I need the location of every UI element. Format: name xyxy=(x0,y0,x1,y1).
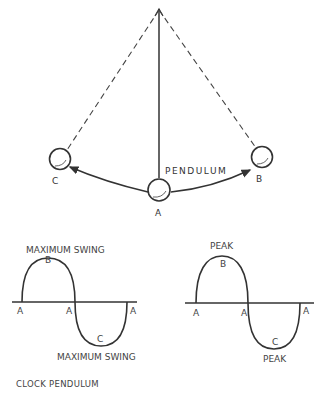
right-wave-trough-label: C xyxy=(272,337,278,347)
pendulum-label: PENDULUM xyxy=(165,166,227,176)
left-wave-peak-label: B xyxy=(45,255,51,265)
left-wave-graph: MAXIMUM SWING B C MAXIMUM SWING A A A xyxy=(12,245,137,362)
bob-position-c xyxy=(50,149,71,170)
left-wave-trough-label: C xyxy=(97,334,103,344)
label-a: A xyxy=(155,208,162,218)
left-wave-top-label: MAXIMUM SWING xyxy=(26,245,105,255)
left-wave-axis-label-2: A xyxy=(66,306,73,316)
right-wave-axis-label-1: A xyxy=(193,308,200,318)
swing-arrow-left xyxy=(70,167,148,192)
right-wave-bottom-label: PEAK xyxy=(263,354,287,364)
pendulum-swing-illustration: C B A PENDULUM xyxy=(50,9,273,218)
bob-position-b xyxy=(252,147,273,168)
pendulum-diagram: C B A PENDULUM MAXIMUM SWING B C MAXIMUM… xyxy=(0,0,327,395)
right-wave-peak-label: B xyxy=(220,259,226,269)
label-c: C xyxy=(52,176,58,186)
label-b: B xyxy=(256,174,262,184)
bob-position-a xyxy=(148,179,170,201)
right-wave-axis-label-3: A xyxy=(303,306,310,316)
right-wave-graph: PEAK B C PEAK A A A xyxy=(185,241,314,364)
dashed-line-left xyxy=(67,10,159,150)
dashed-line-right xyxy=(159,10,256,148)
right-wave-axis-label-2: A xyxy=(241,308,248,318)
right-wave-top-label: PEAK xyxy=(210,241,234,251)
left-wave-bottom-label: MAXIMUM SWING xyxy=(57,352,136,362)
caption: CLOCK PENDULUM xyxy=(16,379,99,389)
left-wave-axis-label-1: A xyxy=(17,306,24,316)
left-wave-axis-label-3: A xyxy=(130,306,137,316)
